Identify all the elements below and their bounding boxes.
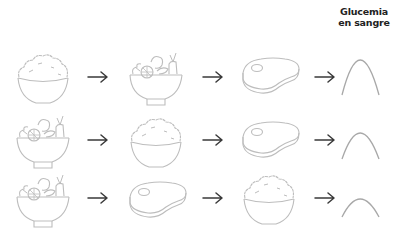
steak-icon [128,181,188,219]
salad-bowl-icon [16,174,70,228]
arrow-right-icon [314,192,336,204]
arrow-right-icon [87,192,109,204]
arrow-right-icon [202,134,224,146]
arrow-right-icon [202,71,224,83]
salad-bowl-icon [16,115,70,169]
glucose-curve-high [341,40,381,96]
glucose-curve-medium [341,120,381,160]
rice-bowl-icon [16,52,70,106]
glucose-curve-low [341,190,381,218]
title-line-2: en sangre [330,17,398,28]
arrow-right-icon [314,71,336,83]
steak-icon [241,57,301,95]
salad-bowl-icon [129,52,183,106]
arrow-right-icon [87,71,109,83]
rice-bowl-icon [242,173,296,227]
arrow-right-icon [202,192,224,204]
chart-title: Glucemia en sangre [330,6,398,28]
steak-icon [241,121,301,159]
title-line-1: Glucemia [330,6,398,17]
arrow-right-icon [314,134,336,146]
arrow-right-icon [87,134,109,146]
rice-bowl-icon [129,116,183,170]
